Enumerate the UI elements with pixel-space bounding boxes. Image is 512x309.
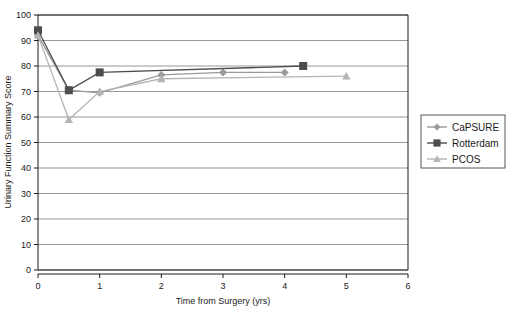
y-tick-label: 90 xyxy=(21,36,31,46)
series-rotterdam xyxy=(34,26,307,94)
marker-diamond xyxy=(281,68,289,76)
x-tick-label: 5 xyxy=(344,281,349,291)
series-line xyxy=(38,35,285,92)
y-tick-label: 100 xyxy=(16,10,31,20)
marker-diamond xyxy=(219,68,227,76)
x-axis-label: Time from Surgery (yrs) xyxy=(176,296,271,306)
chart-container: 0102030405060708090100 0123456 Urinary F… xyxy=(0,0,512,309)
legend-label: Rotterdam xyxy=(452,138,499,149)
y-tick-label: 80 xyxy=(21,61,31,71)
chart-legend: CaPSURERotterdamPCOS xyxy=(421,115,505,168)
plot-frame xyxy=(38,15,408,274)
y-tick-label: 20 xyxy=(21,214,31,224)
y-tick-label: 0 xyxy=(26,265,31,275)
marker-square xyxy=(96,68,104,76)
x-tick-label: 0 xyxy=(35,281,40,291)
x-tick-label: 3 xyxy=(220,281,225,291)
series-line xyxy=(38,35,346,119)
y-tick-label: 70 xyxy=(21,87,31,97)
y-tick-label: 40 xyxy=(21,163,31,173)
y-axis-ticks: 0102030405060708090100 xyxy=(16,10,38,275)
grid-lines xyxy=(38,15,408,270)
y-tick-label: 10 xyxy=(21,240,31,250)
y-tick-label: 50 xyxy=(21,138,31,148)
x-tick-label: 1 xyxy=(97,281,102,291)
line-chart: 0102030405060708090100 0123456 Urinary F… xyxy=(0,0,512,309)
legend-label: PCOS xyxy=(452,154,481,165)
marker-square xyxy=(65,86,73,94)
x-tick-label: 2 xyxy=(159,281,164,291)
series-line xyxy=(38,30,303,90)
marker-square xyxy=(299,62,307,70)
y-tick-label: 30 xyxy=(21,189,31,199)
x-axis-ticks: 0123456 xyxy=(35,274,410,291)
series-pcos xyxy=(34,31,351,123)
x-tick-label: 6 xyxy=(405,281,410,291)
legend-label: CaPSURE xyxy=(452,122,500,133)
y-tick-label: 60 xyxy=(21,112,31,122)
y-axis-label: Urinary Function Summary Score xyxy=(3,75,13,208)
marker-square xyxy=(433,139,440,146)
x-tick-label: 4 xyxy=(282,281,287,291)
